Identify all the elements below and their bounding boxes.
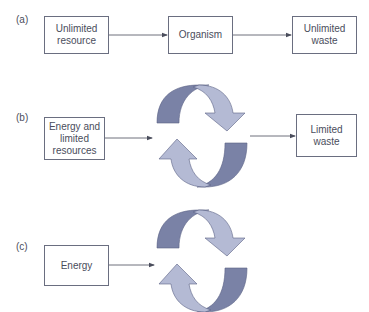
cycle-arrows-icon-c xyxy=(157,210,247,312)
diagram-graphics xyxy=(0,0,369,312)
cycle-arrows-icon-b xyxy=(157,85,247,187)
